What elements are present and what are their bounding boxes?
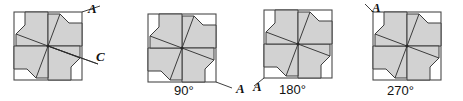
panel-90: A 90° — [132, 0, 248, 101]
vertex-label-a: A — [88, 2, 97, 15]
panel-original: A C — [0, 0, 116, 101]
rotation-angle-label: 180° — [279, 83, 306, 96]
vertex-label-c: C — [96, 50, 105, 63]
vertex-label-a: A — [253, 80, 262, 93]
vertex-label-a: A — [236, 82, 245, 95]
vertex-label-a: A — [372, 1, 381, 14]
rotation-angle-label: 90° — [174, 84, 194, 97]
panel-180: A 180° — [247, 0, 363, 101]
rotational-symmetry-figure: A C — [0, 0, 463, 101]
panel-270: A 270° — [355, 0, 463, 101]
rotation-angle-label: 270° — [387, 84, 414, 97]
